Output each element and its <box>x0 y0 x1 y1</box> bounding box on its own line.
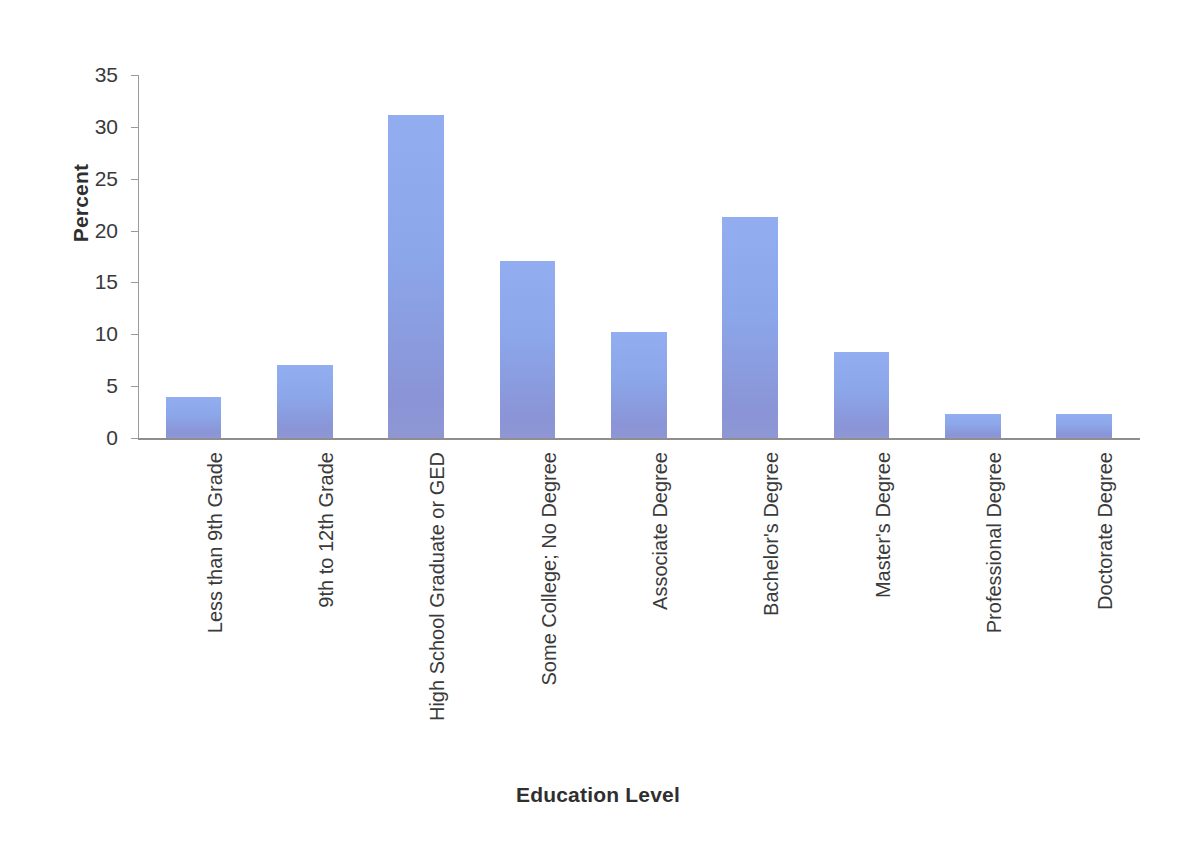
y-axis-tick-mark <box>131 438 138 439</box>
x-axis-tick-label: 9th to 12th Grade <box>316 452 336 608</box>
bar[interactable] <box>277 365 333 438</box>
x-axis-tick-label: Some College; No Degree <box>539 452 559 685</box>
x-axis-tick-label: Less than 9th Grade <box>205 452 225 633</box>
x-axis-tick-label: Doctorate Degree <box>1095 452 1115 610</box>
y-axis-tick-mark <box>131 386 138 387</box>
bar-slot <box>695 75 806 438</box>
y-axis-tick-label: 15 <box>72 271 118 292</box>
x-axis-tick-label: Bachelor's Degree <box>761 452 781 616</box>
bar-slot <box>138 75 249 438</box>
y-axis-tick-label: 20 <box>72 220 118 241</box>
bar-slot <box>806 75 917 438</box>
bar-slot <box>917 75 1028 438</box>
bar[interactable] <box>611 332 667 438</box>
bar[interactable] <box>500 261 556 438</box>
bar-slot <box>249 75 360 438</box>
bar[interactable] <box>166 397 222 438</box>
y-axis-tick-label: 25 <box>72 168 118 189</box>
x-axis-tick-label: Master's Degree <box>873 452 893 598</box>
x-axis-tick-label: High School Graduate or GED <box>427 452 447 721</box>
bar[interactable] <box>945 414 1001 438</box>
y-axis-tick-mark <box>131 282 138 283</box>
bar-slot <box>361 75 472 438</box>
x-axis-tick-label: Associate Degree <box>650 452 670 610</box>
y-axis-title: Percent <box>69 133 99 273</box>
x-axis-line <box>138 438 1140 440</box>
y-axis-tick-label: 35 <box>72 64 118 85</box>
bar[interactable] <box>388 115 444 438</box>
y-axis-tick-mark <box>131 127 138 128</box>
y-axis-tick-mark <box>131 179 138 180</box>
plot-area <box>138 75 1140 438</box>
bar[interactable] <box>1056 414 1112 438</box>
y-axis-tick-mark <box>131 231 138 232</box>
y-axis-tick-label: 0 <box>72 427 118 448</box>
y-axis-tick-label: 10 <box>72 323 118 344</box>
bar-slot <box>583 75 694 438</box>
y-axis-tick-label: 30 <box>72 116 118 137</box>
bar-slot <box>1029 75 1140 438</box>
y-axis-tick-mark <box>131 334 138 335</box>
y-axis-tick-label: 5 <box>72 375 118 396</box>
x-axis-title: Education Level <box>0 783 1196 807</box>
bar-slot <box>472 75 583 438</box>
bar[interactable] <box>722 217 778 438</box>
x-axis-tick-label: Professional Degree <box>984 452 1004 633</box>
bar[interactable] <box>834 352 890 438</box>
y-axis-tick-mark <box>131 75 138 76</box>
bar-chart-figure: Percent 05101520253035 Less than 9th Gra… <box>0 0 1196 843</box>
